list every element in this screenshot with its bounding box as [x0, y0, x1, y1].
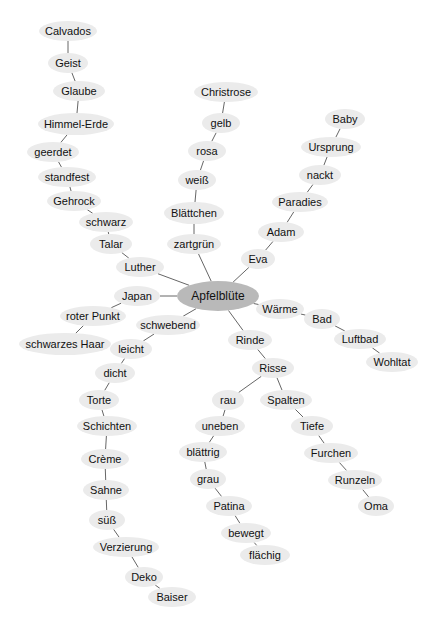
node-adam[interactable]: Adam [258, 222, 304, 242]
node-label: standfest [45, 171, 90, 183]
node-label: Japan [122, 290, 152, 302]
node-label: rosa [196, 145, 218, 157]
node-gelb[interactable]: gelb [202, 113, 240, 133]
node-verzierung[interactable]: Verzierung [93, 537, 159, 557]
node-spalten[interactable]: Spalten [260, 390, 312, 410]
node-label: blättrig [186, 446, 219, 458]
node-label: Gehrock [53, 195, 95, 207]
node-blaettrig[interactable]: blättrig [179, 442, 227, 462]
node-talar[interactable]: Talar [90, 234, 132, 254]
node-label: Adam [267, 226, 296, 238]
edge-schichten-creme [106, 436, 107, 449]
node-baby[interactable]: Baby [325, 109, 365, 129]
edge-weiss-rosa [200, 161, 203, 170]
node-torte[interactable]: Torte [79, 390, 119, 410]
node-deko[interactable]: Deko [125, 567, 163, 587]
node-oma[interactable]: Oma [358, 496, 394, 516]
node-label: Wärme [262, 303, 297, 315]
node-label: Verzierung [100, 541, 153, 553]
node-label: Wohltat [373, 356, 410, 368]
node-schwarzes-haar[interactable]: schwarzes Haar [19, 333, 111, 355]
node-rosa[interactable]: rosa [188, 141, 226, 161]
node-label: uneben [202, 420, 239, 432]
node-baiser[interactable]: Baiser [148, 587, 196, 607]
node-leicht[interactable]: leicht [110, 339, 152, 359]
node-sahne[interactable]: Sahne [83, 480, 129, 500]
edge-verzierung-deko [132, 557, 138, 568]
node-geerdet[interactable]: geerdet [27, 142, 79, 162]
node-flaechig[interactable]: flächig [240, 545, 290, 565]
node-waerme[interactable]: Wärme [256, 299, 304, 319]
node-japan[interactable]: Japan [114, 286, 160, 306]
node-luftbad[interactable]: Luftbad [334, 329, 386, 349]
node-wohltat[interactable]: Wohltat [366, 352, 418, 372]
node-bewegt[interactable]: bewegt [221, 523, 271, 543]
node-label: grau [197, 473, 219, 485]
edge-luftbad-wohltat [372, 348, 379, 353]
edge-spalten-tiefe [295, 409, 303, 417]
node-tiefe[interactable]: Tiefe [291, 416, 333, 436]
node-rau[interactable]: rau [212, 390, 244, 410]
edge-furchen-runzeln [339, 463, 346, 471]
node-runzeln[interactable]: Runzeln [328, 470, 382, 490]
edge-blaettrig-grau [205, 462, 206, 469]
node-creme[interactable]: Crème [81, 449, 129, 469]
node-label: Baiser [156, 591, 188, 603]
edge-apfelbluete-rinde [229, 311, 244, 331]
node-zartgruen[interactable]: zartgrün [167, 234, 221, 254]
node-rinde[interactable]: Rinde [228, 330, 272, 350]
node-standfest[interactable]: standfest [38, 167, 96, 187]
edge-apfelbluete-eva [233, 267, 249, 282]
edge-rinde-risse [258, 349, 266, 358]
node-label: Luftbad [342, 333, 379, 345]
node-nackt[interactable]: nackt [299, 165, 341, 185]
node-paradies[interactable]: Paradies [272, 192, 328, 212]
edge-patina-bewegt [235, 516, 240, 524]
node-grau[interactable]: grau [190, 469, 226, 489]
node-roter-punkt[interactable]: roter Punkt [60, 306, 126, 326]
node-label: Glaube [61, 85, 96, 97]
node-label: Crème [88, 453, 121, 465]
edge-gelb-christrose [223, 102, 225, 113]
edge-luther-talar [122, 253, 129, 259]
node-weiss[interactable]: weiß [178, 170, 216, 190]
node-label: Oma [364, 500, 389, 512]
node-ursprung[interactable]: Ursprung [301, 137, 361, 157]
edge-rau-uneben [223, 410, 225, 416]
edge-tiefe-furchen [319, 436, 325, 444]
node-schwarz[interactable]: schwarz [79, 212, 133, 232]
edge-grau-patina [215, 488, 222, 496]
edge-waerme-bad [301, 314, 306, 315]
edge-gehrock-standfest [70, 187, 71, 191]
edge-deko-baiser [155, 585, 160, 588]
node-risse[interactable]: Risse [252, 358, 294, 378]
node-luther[interactable]: Luther [116, 257, 164, 277]
node-label: Spalten [267, 394, 304, 406]
node-label: Eva [249, 253, 269, 265]
node-dicht[interactable]: dicht [95, 363, 135, 383]
node-label: leicht [118, 343, 144, 355]
edge-paradies-nackt [307, 184, 313, 192]
node-geist[interactable]: Geist [48, 53, 88, 73]
node-bad[interactable]: Bad [304, 309, 340, 329]
node-furchen[interactable]: Furchen [304, 443, 358, 463]
central-node[interactable]: Apfelblüte [177, 281, 259, 311]
mind-map-canvas: ApfelblüteLutherTalarschwarzGehrockstand… [0, 0, 426, 628]
node-schichten[interactable]: Schichten [77, 416, 137, 436]
node-himmel-erde[interactable]: Himmel-Erde [38, 113, 114, 135]
node-schwebend[interactable]: schwebend [136, 315, 200, 335]
node-christrose[interactable]: Christrose [194, 82, 258, 102]
node-label: dicht [103, 367, 126, 379]
node-blaettchen[interactable]: Blättchen [164, 202, 224, 224]
node-label: Paradies [278, 196, 322, 208]
node-calvados[interactable]: Calvados [39, 21, 97, 41]
edge-japan-roter-punkt [111, 303, 121, 308]
node-gehrock[interactable]: Gehrock [47, 191, 101, 211]
node-suess[interactable]: süß [89, 510, 125, 530]
node-glaube[interactable]: Glaube [53, 81, 105, 101]
node-label: Himmel-Erde [44, 118, 108, 130]
node-uneben[interactable]: uneben [195, 416, 245, 436]
node-patina[interactable]: Patina [206, 496, 252, 516]
node-eva[interactable]: Eva [241, 249, 275, 269]
edge-rosa-gelb [212, 133, 216, 142]
